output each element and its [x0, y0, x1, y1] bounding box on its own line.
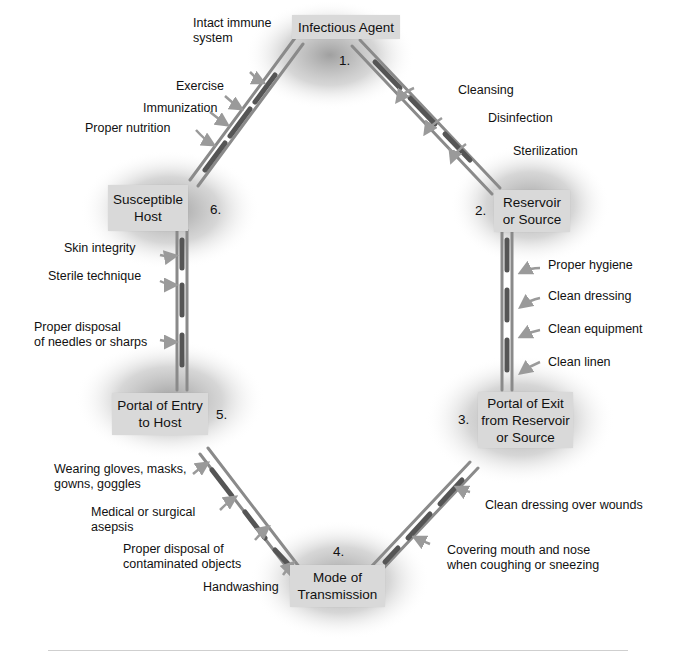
- label-exercise: Exercise: [176, 79, 224, 94]
- node-infectious-agent: Infectious Agent: [292, 15, 400, 39]
- node-number-1: 1.: [339, 53, 350, 68]
- label-clean-linen: Clean linen: [548, 355, 611, 370]
- label-clean-dressing-over-wounds: Clean dressing over wounds: [485, 498, 643, 513]
- node-mode-of-transmission: Mode of Transmission: [290, 565, 385, 607]
- label-handwashing: Handwashing: [203, 580, 279, 595]
- chain-link-5-6: [177, 230, 187, 390]
- node-reservoir: Reservoir or Source: [494, 190, 570, 232]
- node-number-3: 3.: [458, 412, 469, 427]
- node-susceptible-host: Susceptible Host: [108, 185, 188, 231]
- label-sterilization: Sterilization: [513, 144, 578, 159]
- label-proper-disposal-needles: Proper disposal of needles or sharps: [34, 320, 147, 350]
- label-immunization: Immunization: [143, 101, 217, 116]
- node-portal-of-exit: Portal of Exit from Reservoir or Source: [478, 392, 573, 448]
- label-covering-mouth-and-nose: Covering mouth and nose when coughing or…: [447, 543, 599, 573]
- intervention-arrows: [160, 72, 540, 575]
- label-skin-integrity: Skin integrity: [64, 241, 136, 256]
- label-cleansing: Cleansing: [458, 83, 514, 98]
- label-medical-or-surgical-asepsis: Medical or surgical asepsis: [91, 505, 195, 535]
- label-proper-hygiene: Proper hygiene: [548, 258, 633, 273]
- label-sterile-technique: Sterile technique: [48, 269, 141, 284]
- bottom-divider: [48, 650, 628, 651]
- node-portal-of-entry: Portal of Entry to Host: [112, 393, 208, 435]
- node-number-2: 2.: [475, 203, 486, 218]
- node-number-5: 5.: [216, 407, 227, 422]
- chain-link-2-3: [502, 232, 512, 390]
- label-proper-disposal-contaminated: Proper disposal of contaminated objects: [123, 542, 241, 572]
- label-proper-nutrition: Proper nutrition: [85, 121, 170, 136]
- node-number-6: 6.: [210, 202, 221, 217]
- label-clean-dressing: Clean dressing: [548, 289, 631, 304]
- label-wearing-gloves: Wearing gloves, masks, gowns, goggles: [54, 462, 186, 492]
- label-intact-immune-system: Intact immune system: [193, 16, 272, 46]
- label-disinfection: Disinfection: [488, 111, 553, 126]
- label-clean-equipment: Clean equipment: [548, 322, 643, 337]
- node-number-4: 4.: [333, 544, 344, 559]
